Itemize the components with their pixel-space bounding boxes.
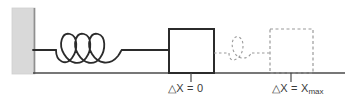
subscript-max: max (308, 87, 323, 96)
ghost-spring-coil (214, 37, 270, 60)
label-max-displacement: △X = Xmax (272, 82, 324, 96)
equals-max: = (288, 82, 301, 94)
block-at-max-displacement (270, 29, 313, 73)
delta-symbol-max: △ (272, 82, 280, 94)
wall-group (12, 8, 35, 74)
spring-coil (33, 34, 169, 63)
spring-mass-diagram: △X = 0 △X = Xmax (0, 0, 350, 104)
variable-max: X (280, 82, 288, 94)
value-equilibrium: 0 (197, 82, 203, 94)
wall (12, 8, 35, 74)
label-equilibrium: △X = 0 (168, 82, 203, 95)
block-at-equilibrium (169, 29, 214, 73)
variable-equilibrium: X (176, 82, 184, 94)
equals-equilibrium: = (184, 82, 197, 94)
delta-symbol-equilibrium: △ (168, 82, 176, 94)
